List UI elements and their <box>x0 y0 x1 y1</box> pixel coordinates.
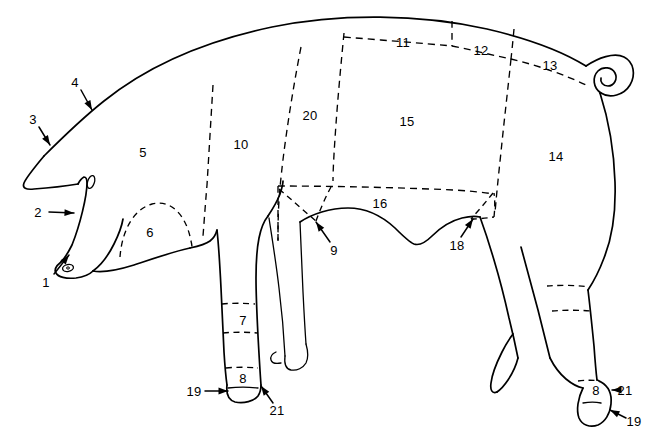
region-label-6: 6 <box>146 226 153 239</box>
nostril-icon <box>62 264 74 273</box>
foreleg-far-rear-path <box>300 222 306 344</box>
callout-label-19: 19 <box>627 415 642 428</box>
cut-neck-5-10 <box>203 85 213 236</box>
hindleg-near-lower-path <box>497 358 518 392</box>
callout-label-21: 21 <box>270 404 285 417</box>
cut-flank-triangle-18a <box>471 193 493 219</box>
region-label-14: 14 <box>549 150 564 163</box>
tail-curl-path <box>586 55 633 96</box>
callout-label-1: 1 <box>42 276 49 289</box>
foreleg-far-dewclaw-path <box>271 352 281 363</box>
region-label-5: 5 <box>139 146 146 159</box>
foreleg-far-hoof-path <box>285 344 308 370</box>
diagram-canvas <box>0 0 662 447</box>
cut-jowl-6 <box>120 203 192 257</box>
hindleg-far-shank-path <box>550 358 583 388</box>
cut-flank-triangle-18b <box>471 217 494 219</box>
region-label-15: 15 <box>400 115 415 128</box>
region-label-20: 20 <box>303 109 318 122</box>
callout-arrowhead-21 <box>261 386 269 396</box>
hindleg-far-front-path <box>521 247 550 358</box>
foreleg-hoof-cleft-path <box>228 387 258 388</box>
ham-rear-edge-path <box>588 93 615 290</box>
cut-foreleg-band-8 <box>226 367 258 368</box>
cut-12-13 <box>511 29 514 59</box>
foreleg-front-edge-path <box>217 230 227 385</box>
hindleg-near-front-path <box>480 217 518 358</box>
callout-arrowhead-3 <box>42 135 50 145</box>
callout-label-9: 9 <box>330 244 337 257</box>
cut-shoulder-triangle-9b <box>316 187 331 221</box>
lower-jaw-path <box>93 219 123 271</box>
region-label-10: 10 <box>234 138 249 151</box>
back-topline-path <box>44 17 586 156</box>
cut-hindleg-band-top <box>547 285 589 287</box>
region-label-7: 7 <box>239 314 246 327</box>
cut-foreleg-band-bottom-7 <box>223 332 257 333</box>
cut-side-belly-15-16 <box>278 186 494 194</box>
callout-label-3: 3 <box>29 113 36 126</box>
cut-hindleg-band-bottom <box>552 310 592 311</box>
eye-icon <box>86 175 97 190</box>
muzzle-upper-path <box>61 177 87 262</box>
pig-anatomy-diagram: 567810111213141516208 123491819212119 <box>0 0 662 447</box>
region-label-12: 12 <box>474 44 489 57</box>
callout-label-4: 4 <box>71 76 78 89</box>
forehead-face-path <box>23 156 78 189</box>
callout-label-2: 2 <box>34 206 41 219</box>
cut-hindleg-band-8 <box>578 380 599 381</box>
callout-arrowhead-4 <box>84 100 92 110</box>
region-label-8: 8 <box>592 384 599 397</box>
foreleg-far-front-path <box>269 218 285 356</box>
throat-line-path <box>93 248 190 272</box>
hindleg-far-rear-path <box>588 290 597 380</box>
cut-13-14 <box>495 59 511 213</box>
callout-label-21: 21 <box>618 384 633 397</box>
callout-label-18: 18 <box>450 239 465 252</box>
region-label-11: 11 <box>396 36 410 49</box>
cut-flank-triangle-18c <box>494 193 495 217</box>
callout-arrowhead-2 <box>64 209 74 216</box>
region-label-8: 8 <box>239 372 246 385</box>
hindleg-near-hoof-path <box>491 334 513 393</box>
region-label-13: 13 <box>543 59 558 72</box>
cut-loin-lower-right <box>452 46 588 86</box>
cut-shoulder-10-20 <box>278 47 301 240</box>
callout-arrowhead-9 <box>316 222 324 232</box>
region-label-16: 16 <box>373 197 388 210</box>
callout-arrowhead-18 <box>465 219 473 229</box>
callout-label-19: 19 <box>187 385 202 398</box>
nostril-dot-icon <box>67 267 70 269</box>
cut-rib-20-15 <box>333 33 344 181</box>
hindleg-far-cleft-path <box>583 402 601 403</box>
cut-foreleg-band-top-7 <box>222 303 255 304</box>
foreleg-rear-edge-path <box>256 216 268 385</box>
callout-arrowhead-19 <box>610 410 620 417</box>
